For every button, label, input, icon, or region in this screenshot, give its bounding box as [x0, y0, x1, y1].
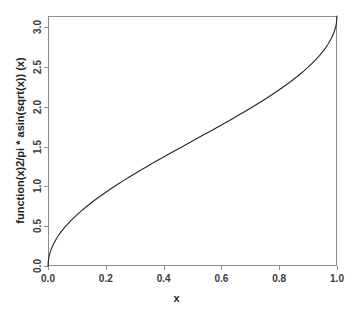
chart-plot-area — [0, 0, 353, 312]
y-tick-label: 2.5 — [33, 55, 43, 79]
x-tick-label: 1.0 — [325, 274, 349, 284]
x-axis-title: x — [0, 293, 353, 304]
y-tick-label: 1.5 — [33, 135, 43, 159]
y-axis-title: function(x)2/pi * asin(sqrt(x)) (x) — [15, 0, 26, 286]
chart-figure: 0.00.20.40.60.81.0 0.00.51.01.52.02.53.0… — [0, 0, 353, 312]
y-tick-label: 0.5 — [33, 214, 43, 238]
y-tick-label: 3.0 — [33, 15, 43, 39]
x-tick-label: 0.2 — [94, 274, 118, 284]
y-tick-label: 2.0 — [33, 95, 43, 119]
y-tick-label: 0.0 — [33, 254, 43, 278]
x-tick-label: 0.4 — [152, 274, 176, 284]
x-tick-label: 0.8 — [267, 274, 291, 284]
y-tick-label: 1.0 — [33, 174, 43, 198]
x-tick-label: 0.6 — [209, 274, 233, 284]
